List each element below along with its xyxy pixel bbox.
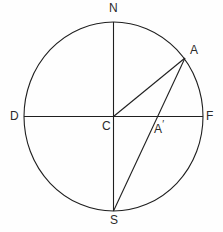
point-label-f: F <box>206 110 214 122</box>
point-label-a: A <box>190 44 198 56</box>
point-label-a-prime: A′ <box>154 119 164 135</box>
a-prime-mark: ′ <box>162 119 164 130</box>
chord-a-to-s-line <box>114 58 186 211</box>
point-label-s: S <box>110 214 118 226</box>
geometry-canvas <box>0 0 223 232</box>
point-label-n: N <box>109 2 118 14</box>
radius-center-to-a-line <box>114 58 186 117</box>
a-prime-base: A <box>154 122 162 136</box>
point-label-d: D <box>10 110 19 122</box>
point-label-c: C <box>102 120 111 132</box>
geometry-figure: N A D F C A′ S <box>0 0 223 232</box>
